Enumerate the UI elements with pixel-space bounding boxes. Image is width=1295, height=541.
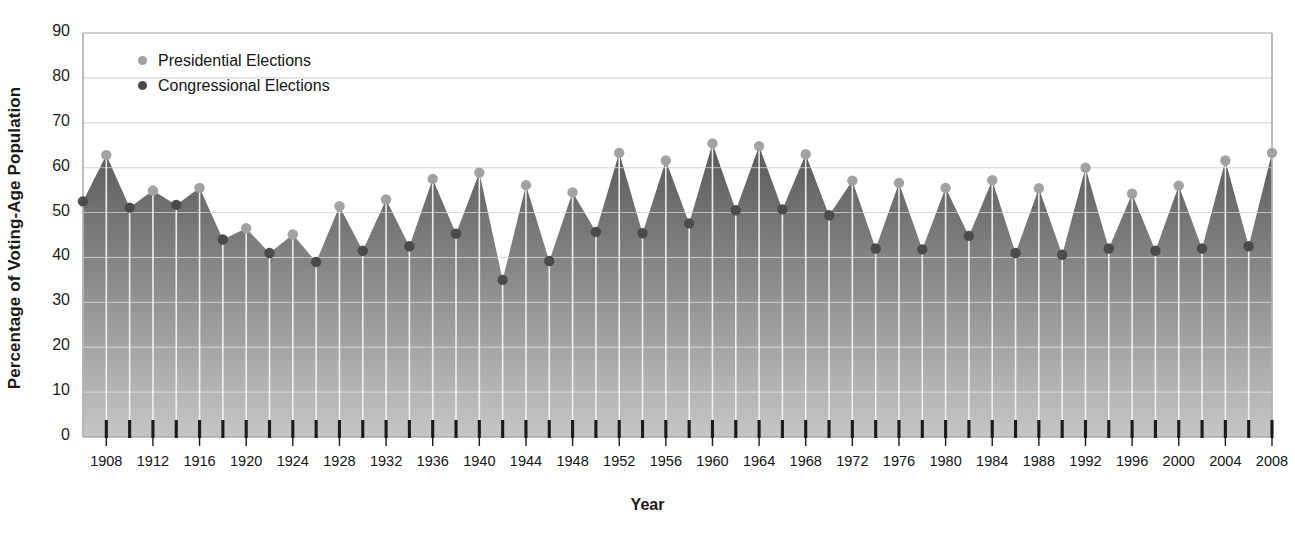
data-point-congressional[interactable] bbox=[917, 244, 927, 254]
data-point-congressional[interactable] bbox=[1010, 248, 1020, 258]
x-tick-label: 1912 bbox=[137, 453, 169, 469]
data-point-presidential[interactable] bbox=[894, 178, 904, 188]
data-point-presidential[interactable] bbox=[847, 175, 857, 185]
data-point-presidential[interactable] bbox=[707, 138, 717, 148]
data-point-presidential[interactable] bbox=[428, 174, 438, 184]
data-point-presidential[interactable] bbox=[288, 229, 298, 239]
x-axis-title: Year bbox=[0, 496, 1295, 514]
data-point-presidential[interactable] bbox=[801, 149, 811, 159]
legend-item-congressional[interactable]: Congressional Elections bbox=[138, 73, 330, 98]
data-point-congressional[interactable] bbox=[264, 248, 274, 258]
data-point-presidential[interactable] bbox=[940, 183, 950, 193]
data-point-presidential[interactable] bbox=[521, 180, 531, 190]
legend-marker-congressional-icon bbox=[138, 81, 147, 90]
data-point-congressional[interactable] bbox=[1057, 250, 1067, 260]
x-tick-label: 2008 bbox=[1256, 453, 1288, 469]
x-tick-label: 1960 bbox=[696, 453, 728, 469]
x-tick-label: 1924 bbox=[277, 453, 309, 469]
data-point-congressional[interactable] bbox=[358, 246, 368, 256]
legend-item-presidential[interactable]: Presidential Elections bbox=[138, 48, 330, 73]
data-point-congressional[interactable] bbox=[497, 275, 507, 285]
data-point-presidential[interactable] bbox=[381, 194, 391, 204]
data-point-congressional[interactable] bbox=[78, 196, 88, 206]
x-tick-label: 1984 bbox=[976, 453, 1008, 469]
data-point-presidential[interactable] bbox=[1174, 180, 1184, 190]
data-point-congressional[interactable] bbox=[1243, 241, 1253, 251]
data-point-presidential[interactable] bbox=[241, 223, 251, 233]
x-tick-label: 1928 bbox=[323, 453, 355, 469]
x-tick-label: 1952 bbox=[603, 453, 635, 469]
data-point-presidential[interactable] bbox=[1127, 189, 1137, 199]
data-point-presidential[interactable] bbox=[754, 141, 764, 151]
x-tick-label: 1988 bbox=[1023, 453, 1055, 469]
x-tick-label: 1944 bbox=[510, 453, 542, 469]
data-point-congressional[interactable] bbox=[637, 228, 647, 238]
x-tick-label: 1920 bbox=[230, 453, 262, 469]
x-tick-label: 1908 bbox=[90, 453, 122, 469]
data-point-congressional[interactable] bbox=[544, 256, 554, 266]
chart-legend: Presidential Elections Congressional Ele… bbox=[138, 48, 330, 98]
data-point-congressional[interactable] bbox=[404, 241, 414, 251]
data-point-congressional[interactable] bbox=[1104, 243, 1114, 253]
x-tick-label: 2000 bbox=[1163, 453, 1195, 469]
data-point-congressional[interactable] bbox=[731, 205, 741, 215]
x-tick-label: 1940 bbox=[463, 453, 495, 469]
x-tick-label: 1968 bbox=[790, 453, 822, 469]
data-point-congressional[interactable] bbox=[870, 243, 880, 253]
data-point-congressional[interactable] bbox=[451, 228, 461, 238]
data-point-congressional[interactable] bbox=[124, 202, 134, 212]
data-point-congressional[interactable] bbox=[684, 218, 694, 228]
data-point-presidential[interactable] bbox=[987, 175, 997, 185]
x-tick-label: 1996 bbox=[1116, 453, 1148, 469]
chart-container: Percentage of Voting-Age Population 0102… bbox=[0, 0, 1295, 541]
data-point-congressional[interactable] bbox=[1150, 246, 1160, 256]
legend-label-congressional: Congressional Elections bbox=[158, 77, 330, 95]
legend-label-presidential: Presidential Elections bbox=[158, 52, 311, 70]
data-point-presidential[interactable] bbox=[148, 185, 158, 195]
data-point-presidential[interactable] bbox=[1267, 148, 1277, 158]
data-point-presidential[interactable] bbox=[194, 183, 204, 193]
data-point-congressional[interactable] bbox=[824, 210, 834, 220]
x-tick-label: 1916 bbox=[183, 453, 215, 469]
data-point-congressional[interactable] bbox=[1197, 243, 1207, 253]
data-point-presidential[interactable] bbox=[567, 187, 577, 197]
data-point-congressional[interactable] bbox=[964, 231, 974, 241]
data-point-congressional[interactable] bbox=[311, 257, 321, 267]
x-tick-label: 1976 bbox=[883, 453, 915, 469]
data-point-presidential[interactable] bbox=[1080, 162, 1090, 172]
x-tick-label: 1936 bbox=[417, 453, 449, 469]
data-point-congressional[interactable] bbox=[591, 227, 601, 237]
data-point-presidential[interactable] bbox=[661, 155, 671, 165]
data-point-presidential[interactable] bbox=[101, 150, 111, 160]
x-tick-label: 2004 bbox=[1209, 453, 1241, 469]
data-point-presidential[interactable] bbox=[1220, 155, 1230, 165]
data-point-congressional[interactable] bbox=[218, 234, 228, 244]
data-point-presidential[interactable] bbox=[474, 167, 484, 177]
data-point-congressional[interactable] bbox=[777, 204, 787, 214]
x-tick-label: 1972 bbox=[836, 453, 868, 469]
x-tick-label: 1980 bbox=[929, 453, 961, 469]
data-point-presidential[interactable] bbox=[1034, 183, 1044, 193]
x-tick-label: 1964 bbox=[743, 453, 775, 469]
data-point-congressional[interactable] bbox=[171, 200, 181, 210]
x-tick-label: 1956 bbox=[650, 453, 682, 469]
x-tick-label: 1932 bbox=[370, 453, 402, 469]
data-point-presidential[interactable] bbox=[614, 148, 624, 158]
legend-marker-presidential-icon bbox=[138, 56, 147, 65]
data-point-presidential[interactable] bbox=[334, 201, 344, 211]
x-tick-label: 1992 bbox=[1069, 453, 1101, 469]
x-tick-label: 1948 bbox=[556, 453, 588, 469]
